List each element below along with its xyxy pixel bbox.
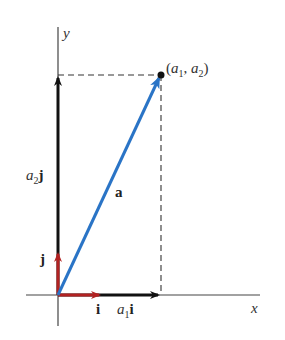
y-axis-label: y xyxy=(61,25,70,41)
a-vector-label: a xyxy=(115,184,123,200)
x-axis-label: x xyxy=(250,300,258,316)
i-unit-label: i xyxy=(96,301,100,317)
vector-diagram: y x (a1, a2) a a2j j i a1i xyxy=(0,0,285,340)
point-a1-a2 xyxy=(158,72,165,79)
a2j-label: a2j xyxy=(26,167,44,186)
a1i-label: a1i xyxy=(117,301,134,320)
j-unit-label: j xyxy=(39,251,45,267)
a-vector-arrow xyxy=(58,78,159,295)
point-label: (a1, a2) xyxy=(166,60,209,79)
